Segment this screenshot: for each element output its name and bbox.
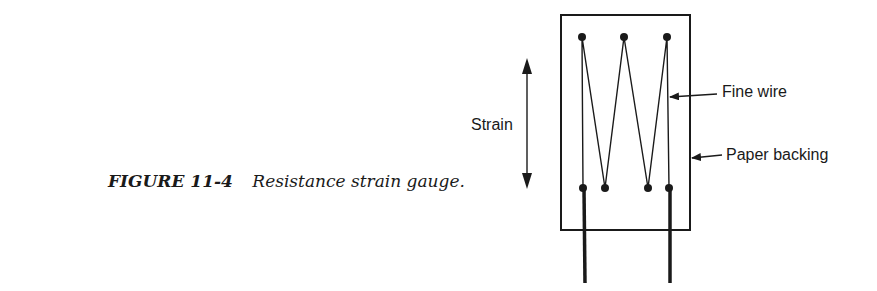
lead-wire-left xyxy=(584,188,585,283)
strain-arrow-up-icon xyxy=(522,58,532,74)
top-solder-points xyxy=(578,33,671,41)
fine-wire-leader-arrow xyxy=(670,94,717,97)
bottom-solder-points xyxy=(579,184,673,192)
paper-backing-label: Paper backing xyxy=(726,146,828,164)
paper-backing-leader-arrow xyxy=(692,155,722,158)
strain-label: Strain xyxy=(471,116,513,134)
fine-wire xyxy=(582,37,669,188)
strain-arrow-down-icon xyxy=(522,173,532,189)
fine-wire-label: Fine wire xyxy=(722,83,787,101)
